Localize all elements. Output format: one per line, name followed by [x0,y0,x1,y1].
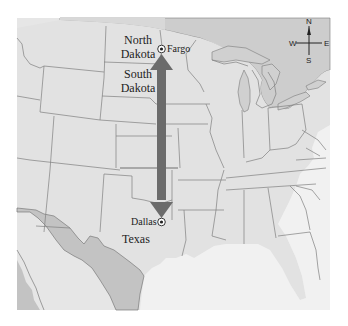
label-dallas: Dallas [131,216,157,228]
label-south-dakota: South Dakota [118,67,158,95]
label-texas: Texas [122,232,150,246]
compass-north: N [306,17,312,26]
label-south-dakota-line2: Dakota [118,81,158,95]
compass-west: W [289,39,297,48]
label-south-dakota-line1: South [118,67,158,81]
compass-south: S [306,56,311,65]
compass-east: E [324,39,329,48]
label-fargo: Fargo [167,43,190,55]
label-north-dakota-line2: Dakota [118,47,158,61]
arrow-shaft [157,70,166,200]
fargo-marker-icon [158,45,166,53]
label-north-dakota-line1: North [118,33,158,47]
dallas-marker-icon [158,218,166,226]
label-north-dakota: North Dakota [118,33,158,61]
